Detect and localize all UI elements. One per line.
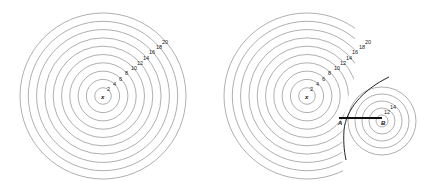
svg-text:8: 8: [328, 70, 331, 76]
svg-text:2: 2: [107, 86, 110, 92]
svg-text:6: 6: [119, 76, 122, 82]
svg-text:14: 14: [346, 55, 352, 61]
svg-text:6: 6: [322, 76, 325, 82]
svg-text:20: 20: [365, 39, 371, 45]
svg-text:16: 16: [352, 49, 358, 55]
svg-text:14: 14: [143, 55, 149, 61]
svg-text:16: 16: [149, 49, 155, 55]
right-center-label: x: [304, 94, 309, 100]
left-center-label: x: [100, 94, 105, 100]
diagram-canvas: x 2 4 6 8 10 12 14 16 18 20 x: [0, 0, 441, 181]
point-a-label: A: [337, 120, 342, 126]
svg-text:4: 4: [316, 81, 319, 87]
svg-text:8: 8: [125, 70, 128, 76]
b-ring-labels: 12 14: [384, 104, 396, 115]
svg-text:20: 20: [162, 39, 168, 45]
svg-text:14: 14: [390, 104, 396, 110]
svg-text:2: 2: [310, 86, 313, 92]
point-b-label: B: [381, 120, 386, 126]
svg-text:4: 4: [113, 81, 116, 87]
